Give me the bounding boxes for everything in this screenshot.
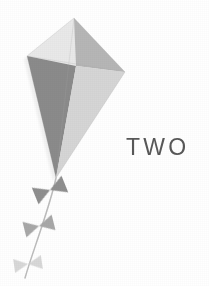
page-canvas: TWO <box>0 0 209 286</box>
wordmark-two: TWO <box>126 136 189 159</box>
kite-body <box>27 18 125 178</box>
